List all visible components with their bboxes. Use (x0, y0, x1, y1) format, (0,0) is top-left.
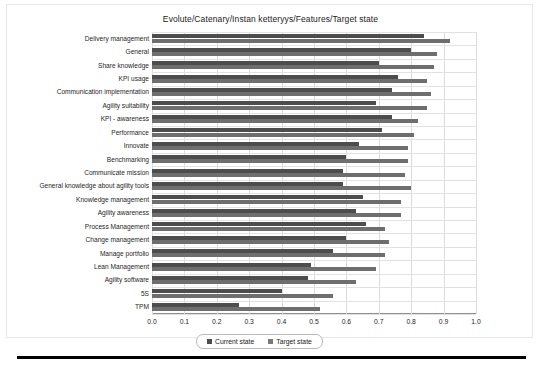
bar-group (152, 247, 476, 260)
bar-target-state (152, 253, 385, 257)
bar-target-state (152, 65, 434, 69)
category-label: Innovate (0, 142, 149, 150)
current-state-swatch (207, 339, 212, 344)
category-label: Share knowledge (0, 62, 149, 70)
bar-target-state (152, 186, 411, 190)
category-label: Process Management (0, 223, 149, 231)
category-label: General (0, 48, 149, 56)
x-tick-label-0.3: 0.3 (234, 318, 264, 325)
bar-target-state (152, 267, 376, 271)
chart-frame: Evolute/Catenary/Instan ketteryys/Featur… (6, 4, 533, 338)
bar-target-state (152, 146, 408, 150)
bar-group (152, 139, 476, 152)
x-tick-label-0.0: 0.0 (137, 318, 167, 325)
category-label: KPI - awareness (0, 115, 149, 123)
x-tick-label-0.8: 0.8 (396, 318, 426, 325)
x-tick-label-0.7: 0.7 (364, 318, 394, 325)
bar-target-state (152, 240, 389, 244)
x-tick-label-0.9: 0.9 (429, 318, 459, 325)
bar-group (152, 166, 476, 179)
bar-target-state (152, 200, 401, 204)
bar-target-state (152, 92, 431, 96)
category-label: Knowledge management (0, 196, 149, 204)
bar-group (152, 220, 476, 233)
legend-label-target-state: Target state (276, 338, 312, 345)
x-tick-label-1.0: 1.0 (461, 318, 491, 325)
bar-group (152, 260, 476, 273)
bar-group (152, 193, 476, 206)
category-label: Delivery management (0, 35, 149, 43)
x-tick-label-0.6: 0.6 (331, 318, 361, 325)
bar-target-state (152, 39, 450, 43)
bar-target-state (152, 213, 401, 217)
bar-group (152, 32, 476, 45)
chart-legend: Current state Target state (196, 334, 323, 349)
category-label: Lean Management (0, 263, 149, 271)
bar-target-state (152, 79, 427, 83)
bar-group (152, 233, 476, 246)
category-label: Communicate mission (0, 169, 149, 177)
legend-label-current-state: Current state (215, 338, 254, 345)
category-label: Manage portfolio (0, 250, 149, 258)
chart-title: Evolute/Catenary/Instan ketteryys/Featur… (7, 14, 534, 24)
category-label: TPM (0, 303, 149, 311)
bar-group (152, 72, 476, 85)
bar-target-state (152, 133, 414, 137)
bar-target-state (152, 307, 320, 311)
x-tick-label-0.2: 0.2 (202, 318, 232, 325)
category-label: Agility awareness (0, 209, 149, 217)
bar-group (152, 99, 476, 112)
bar-group (152, 113, 476, 126)
x-tick-label-0.1: 0.1 (169, 318, 199, 325)
category-label: Change management (0, 236, 149, 244)
bar-target-state (152, 159, 408, 163)
bar-group (152, 45, 476, 58)
bar-group (152, 153, 476, 166)
figure-container: Evolute/Catenary/Instan ketteryys/Featur… (0, 0, 539, 368)
category-label: Agility software (0, 276, 149, 284)
bar-group (152, 86, 476, 99)
plot-area (152, 32, 476, 314)
bar-target-state (152, 280, 356, 284)
category-label: Benchmarking (0, 156, 149, 164)
category-label: General knowledge about agility tools (0, 182, 149, 190)
legend-entry-current-state: Current state (207, 338, 254, 345)
x-tick-label-0.4: 0.4 (267, 318, 297, 325)
bar-target-state (152, 106, 427, 110)
category-label: Agility suitability (0, 102, 149, 110)
bar-target-state (152, 294, 333, 298)
bar-group (152, 301, 476, 314)
bar-target-state (152, 173, 405, 177)
bottom-divider-rule (17, 356, 526, 359)
category-label: KPI usage (0, 75, 149, 83)
bar-group (152, 126, 476, 139)
category-label: Performance (0, 129, 149, 137)
row-separator (152, 314, 476, 315)
bar-group (152, 274, 476, 287)
bar-target-state (152, 227, 385, 231)
bar-group (152, 59, 476, 72)
category-label: Communication implementation (0, 88, 149, 96)
bar-target-state (152, 119, 418, 123)
target-state-swatch (268, 339, 273, 344)
gridline-1.0 (476, 32, 477, 314)
legend-entry-target-state: Target state (268, 338, 312, 345)
bar-target-state (152, 52, 437, 56)
category-label: 5S (0, 290, 149, 298)
x-tick-label-0.5: 0.5 (299, 318, 329, 325)
bar-group (152, 207, 476, 220)
bar-group (152, 287, 476, 300)
bar-group (152, 180, 476, 193)
